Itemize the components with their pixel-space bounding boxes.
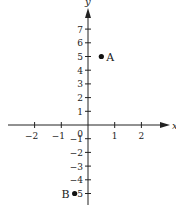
x-tick-label: 2 (139, 131, 145, 141)
y-tick-label: 1 (77, 107, 83, 117)
coordinate-plane: xy −2−11207654321−1−2−3−45 AB (0, 0, 176, 205)
ticks: −2−11207654321−1−2−3−45 (25, 25, 144, 199)
y-tick-label: 7 (77, 25, 83, 35)
y-tick-label: 2 (77, 93, 83, 103)
x-axis-arrow-icon (160, 122, 170, 128)
point-b-marker (72, 191, 77, 196)
y-tick-label: −2 (70, 148, 83, 158)
y-axis-label: y (84, 0, 91, 7)
y-tick-label: −4 (70, 175, 84, 185)
x-tick-label: 1 (112, 131, 118, 141)
y-tick-label: 5 (77, 189, 83, 199)
y-tick-label: 4 (77, 66, 83, 76)
y-tick-label: 6 (77, 38, 83, 48)
y-tick-label: 3 (77, 79, 83, 89)
point-a-marker (99, 54, 104, 59)
y-tick-label: −1 (70, 134, 83, 144)
x-axis-label: x (172, 120, 176, 131)
point-a-label: A (105, 51, 115, 64)
x-tick-label: −2 (25, 131, 38, 141)
axes: xy (8, 0, 176, 205)
y-tick-label: 5 (77, 52, 83, 62)
point-b-label: B (62, 188, 70, 201)
y-tick-label: −3 (70, 162, 84, 172)
y-axis-arrow-icon (85, 8, 91, 18)
x-tick-label: −1 (52, 131, 65, 141)
